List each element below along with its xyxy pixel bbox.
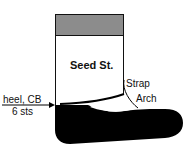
arch-label: Arch xyxy=(136,93,157,104)
heel-arrowhead xyxy=(49,102,55,108)
sock-diagram xyxy=(0,0,191,147)
heel-label: heel, CB xyxy=(3,94,41,105)
heel-stitch-count: 6 sts xyxy=(12,106,33,117)
strap-label: Strap xyxy=(126,78,150,89)
seed-stitch-label: Seed St. xyxy=(70,60,113,71)
cuff-band xyxy=(56,15,124,36)
